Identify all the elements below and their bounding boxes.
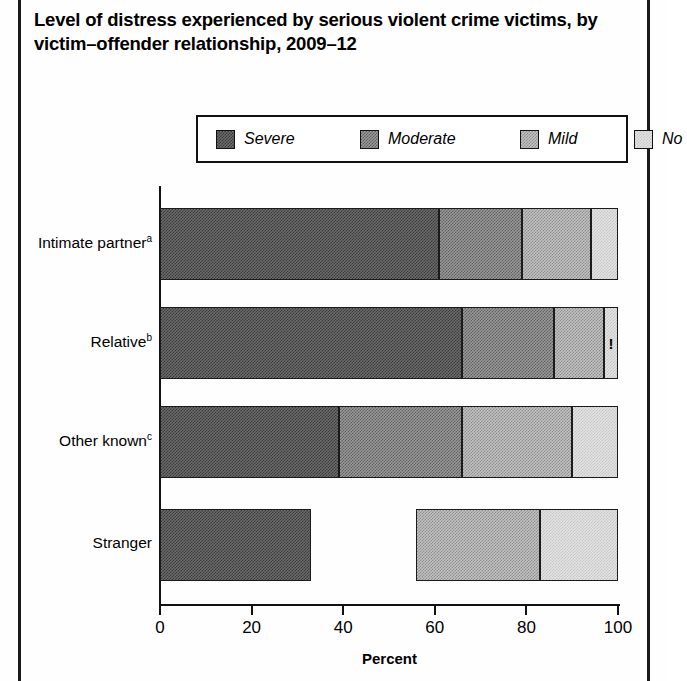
bar-segment-no: ! [604, 307, 618, 379]
x-tick-label-0: 0 [130, 618, 190, 638]
x-axis-line [159, 604, 620, 606]
category-label-footnote-marker: b [146, 332, 152, 343]
category-label-text: Other known [59, 432, 147, 449]
x-axis-label: Percent [159, 650, 620, 667]
bar-row [160, 509, 618, 581]
bar-row [160, 406, 618, 478]
bar-segment-no [572, 406, 618, 478]
bar-segment-mild [554, 307, 604, 379]
bar-segment-mild [522, 208, 591, 280]
x-tick-20 [251, 606, 253, 615]
bar-row: ! [160, 307, 618, 379]
caution-marker: ! [609, 336, 614, 351]
x-tick-label-40: 40 [313, 618, 373, 638]
category-label-text: Stranger [93, 534, 152, 551]
bar-segment-mild [416, 509, 540, 581]
bar-segment-mild [462, 406, 572, 478]
x-tick-40 [342, 606, 344, 615]
bar-segment-moderate [439, 208, 521, 280]
category-label-footnote-marker: c [147, 431, 152, 442]
x-tick-0 [159, 606, 161, 615]
bar-segment-severe [160, 307, 462, 379]
category-label-relative: Relativeb [10, 332, 152, 351]
bar-segment-moderate [339, 406, 463, 478]
bar-row [160, 208, 618, 280]
category-label-footnote-marker: a [146, 233, 152, 244]
bar-segment-moderate [462, 307, 554, 379]
x-tick-80 [525, 606, 527, 615]
category-label-text: Intimate partner [38, 234, 147, 251]
category-label-intimate-partner: Intimate partnera [10, 233, 152, 252]
bar-segment-no [591, 208, 618, 280]
x-tick-label-60: 60 [405, 618, 465, 638]
bar-segment-severe [160, 208, 439, 280]
x-tick-100 [617, 606, 619, 615]
category-label-other-known: Other knownc [10, 431, 152, 450]
bar-segment-severe [160, 406, 339, 478]
x-tick-label-100: 100 [588, 618, 648, 638]
bar-segment-gap [311, 509, 416, 581]
bar-segment-no [540, 509, 618, 581]
x-tick-60 [434, 606, 436, 615]
category-label-text: Relative [90, 333, 146, 350]
bar-segment-severe [160, 509, 311, 581]
category-label-stranger: Stranger [10, 534, 152, 552]
x-tick-label-20: 20 [222, 618, 282, 638]
x-tick-label-80: 80 [496, 618, 556, 638]
